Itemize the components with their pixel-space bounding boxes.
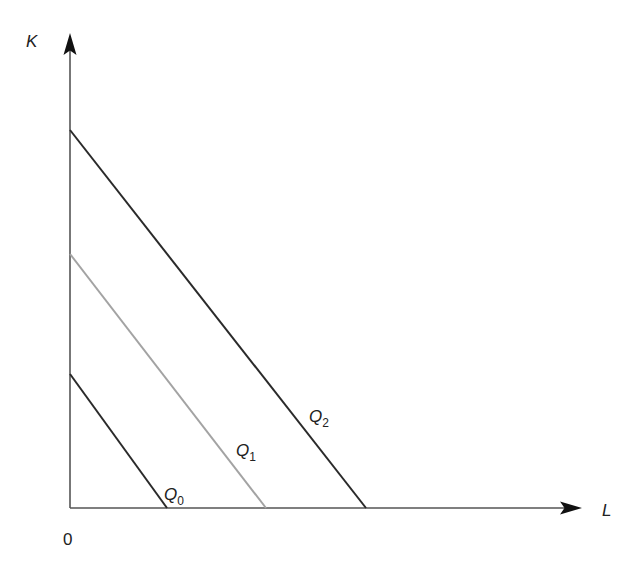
origin-label: 0 — [63, 530, 72, 549]
isoquant-label-q2-main: Q — [309, 407, 322, 426]
isoquant-label-q0-main: Q — [164, 485, 177, 504]
isoquant-line-q2 — [70, 130, 366, 508]
isoquant-label-q2-subscript: 2 — [322, 416, 329, 430]
isoquant-diagram: K L 0 Q0 Q1 Q2 — [0, 0, 644, 567]
isoquant-label-q0-subscript: 0 — [177, 494, 184, 508]
isoquant-label-q1: Q1 — [236, 441, 256, 464]
x-axis-label: L — [602, 501, 611, 520]
isoquant-label-q0: Q0 — [164, 485, 184, 508]
isoquant-label-q1-subscript: 1 — [249, 450, 256, 464]
isoquant-line-q1 — [70, 254, 266, 508]
y-axis-label: K — [26, 32, 38, 51]
isoquant-label-q1-main: Q — [236, 441, 249, 460]
isoquant-label-q2: Q2 — [309, 407, 329, 430]
isoquant-line-q0 — [70, 374, 167, 508]
